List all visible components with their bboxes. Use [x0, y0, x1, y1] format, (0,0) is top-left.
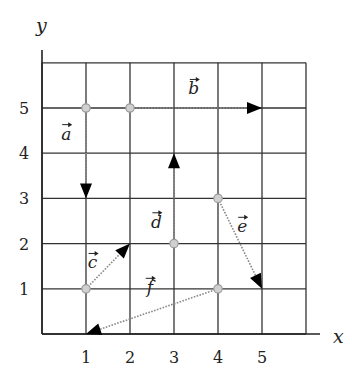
vector-label: d [151, 212, 162, 232]
vector-grid-diagram: 1234512345 abcdef x y [0, 0, 352, 387]
vector-shaft [218, 198, 255, 275]
start-point-marker [82, 285, 90, 293]
start-point-marker [82, 104, 90, 112]
vector-a: a [61, 104, 92, 199]
vector-f: f [86, 276, 222, 335]
vector-e: e [214, 194, 262, 289]
y-tick-label: 5 [19, 99, 29, 118]
arrowhead-icon [80, 183, 92, 198]
vector-label: a [61, 124, 71, 144]
y-tick-label: 2 [19, 235, 29, 254]
start-point-marker [126, 104, 134, 112]
x-tick-label: 3 [169, 348, 179, 367]
y-tick-label: 3 [19, 189, 29, 208]
vector-label: b [188, 78, 199, 98]
x-tick-label: 2 [125, 348, 135, 367]
arrowhead-icon [247, 102, 262, 114]
vector-c: c [82, 244, 130, 293]
vector-overarrow-head-icon [152, 276, 156, 281]
vector-b: b [126, 77, 262, 114]
vectors: abcdef [61, 77, 262, 335]
start-point-marker [214, 285, 222, 293]
start-point-marker [170, 239, 178, 247]
tick-labels: 1234512345 [19, 99, 267, 367]
vector-label: f [145, 277, 156, 297]
arrowhead-icon [168, 153, 180, 168]
vector-label: e [237, 216, 247, 236]
arrowhead-icon [250, 273, 262, 289]
x-tick-label: 4 [213, 348, 223, 367]
vector-d: d [151, 153, 180, 248]
x-tick-label: 1 [81, 348, 91, 367]
y-tick-label: 4 [19, 144, 29, 163]
x-axis-label: x [333, 325, 344, 347]
y-tick-label: 1 [19, 280, 29, 299]
vector-label: c [88, 252, 98, 272]
y-axis-label: y [35, 14, 47, 36]
start-point-marker [214, 194, 222, 202]
vector-shaft [100, 289, 218, 329]
x-tick-label: 5 [257, 348, 267, 367]
arrowhead-icon [86, 323, 102, 334]
